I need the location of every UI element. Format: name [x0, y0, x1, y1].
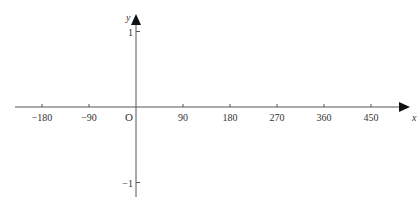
- x-tick-label: 360: [317, 112, 332, 123]
- origin-label: O: [125, 111, 133, 123]
- y-tick-label: −1: [122, 178, 133, 189]
- axes-svg: −180−9090180270360450 1−1 O x y: [0, 0, 420, 207]
- x-tick-label: 270: [270, 112, 285, 123]
- x-tick-label: 90: [178, 112, 188, 123]
- chart-canvas: −180−9090180270360450 1−1 O x y: [0, 0, 420, 207]
- x-tick-label: 450: [364, 112, 379, 123]
- x-tick-label: −180: [32, 112, 53, 123]
- x-axis-arrow-icon: [399, 102, 410, 112]
- x-tick-label: 180: [223, 112, 238, 123]
- x-tick-label: −90: [81, 112, 97, 123]
- y-axis-arrow-icon: [131, 14, 141, 25]
- x-axis-label: x: [411, 112, 417, 123]
- y-axis-label: y: [125, 12, 131, 23]
- y-tick-label: 1: [128, 27, 133, 38]
